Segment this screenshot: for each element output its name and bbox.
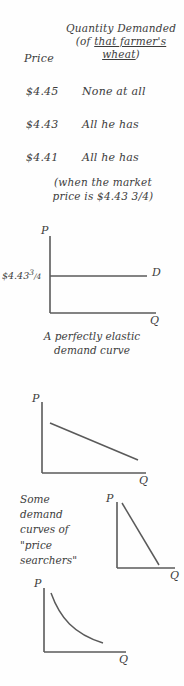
table-header-quantity-line3-suffix: ) xyxy=(136,48,140,60)
side-note-price-searchers: Some demand curves of "price searchers" xyxy=(20,492,84,568)
demand-curve xyxy=(122,503,159,565)
table-row: $4.41 xyxy=(26,151,59,165)
side-note-line1: Some xyxy=(20,493,50,505)
price-tick-denominator: /4 xyxy=(34,272,41,281)
y-axis-label: P xyxy=(106,492,113,505)
table-header-quantity-line3-underlined: wheat xyxy=(102,48,135,60)
table-header-quantity-line2-underlined: that farmer's xyxy=(94,35,166,47)
demand-curve-label: D xyxy=(152,266,161,279)
market-price-note-line2: price is $4.43 3/4) xyxy=(53,190,154,202)
table-row: All he has xyxy=(82,151,139,165)
side-note-line5: searchers" xyxy=(20,554,77,566)
y-axis-label: P xyxy=(41,224,48,237)
table-row: $4.45 xyxy=(26,85,59,99)
gentle-demand-chart-svg xyxy=(0,396,184,488)
table-row: All he has xyxy=(82,118,139,132)
demand-curve xyxy=(51,593,103,643)
y-axis-label: P xyxy=(32,392,39,405)
figure-caption: A perfectly elastic demand curve xyxy=(17,330,167,357)
table-header-quantity-line2-prefix: (of xyxy=(76,35,94,47)
table-row: None at all xyxy=(82,85,146,99)
price-tick-label: $4.433/4 xyxy=(2,268,41,281)
figure-caption-line1: A perfectly elastic xyxy=(44,330,140,342)
side-note-line4: "price xyxy=(20,539,52,551)
figure-caption-line2: demand curve xyxy=(54,344,130,356)
demand-curve xyxy=(50,423,138,460)
side-note-line3: curves of xyxy=(20,523,69,535)
notes-page: Price Quantity Demanded (of that farmer'… xyxy=(0,0,184,686)
x-axis-label: Q xyxy=(119,653,128,666)
table-header-price: Price xyxy=(24,52,54,66)
table-header-quantity: Quantity Demanded (of that farmer's whea… xyxy=(60,22,182,61)
price-tick-whole: $4.43 xyxy=(2,270,29,281)
side-note-line2: demand xyxy=(20,508,63,520)
table-row: $4.43 xyxy=(26,118,59,132)
figure-steep-demand-curve: P Q xyxy=(90,494,184,586)
market-price-note-line1: (when the market xyxy=(54,176,152,188)
x-axis-label: Q xyxy=(170,569,179,582)
figure-perfectly-elastic-demand: P Q D $4.433/4 A perfectly elastic deman… xyxy=(0,222,184,372)
figure-gentle-demand-curve: P Q xyxy=(0,396,184,488)
figure-convex-demand-curve: P Q xyxy=(0,580,140,680)
market-price-note: (when the market price is $4.43 3/4) xyxy=(28,175,178,203)
x-axis-label: Q xyxy=(150,314,159,327)
y-axis-label: P xyxy=(34,577,41,590)
x-axis-label: Q xyxy=(139,474,148,487)
table-header-quantity-line1: Quantity Demanded xyxy=(66,22,176,34)
demand-schedule-table: Price Quantity Demanded (of that farmer'… xyxy=(0,0,184,222)
